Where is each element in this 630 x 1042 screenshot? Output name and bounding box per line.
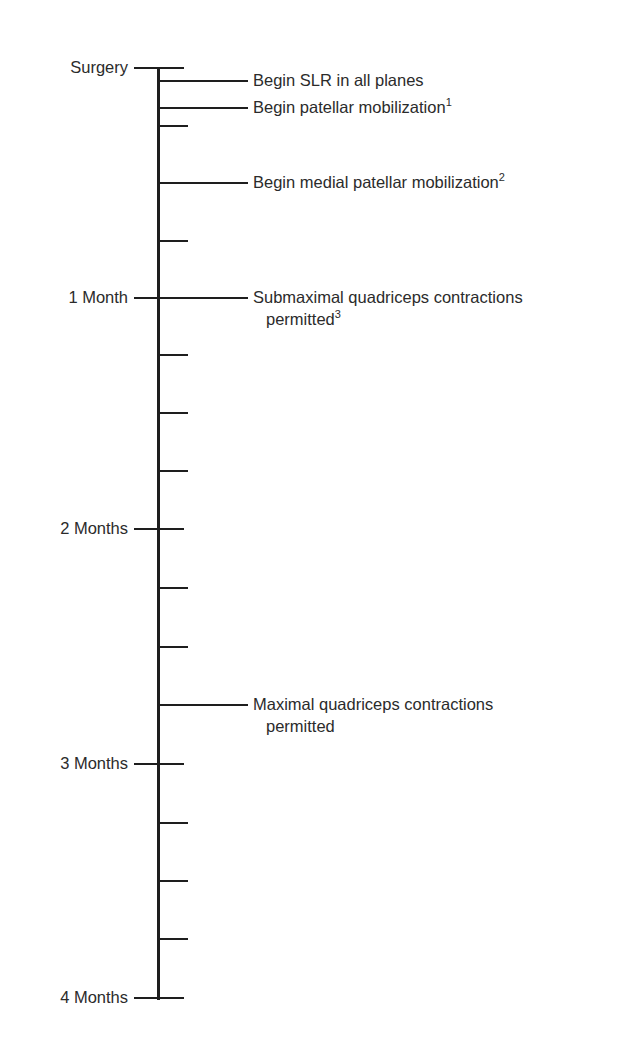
event-label-maximal-quadriceps: Maximal quadriceps contractions permitte… <box>253 694 493 736</box>
label-surgery: Surgery <box>70 57 128 77</box>
event-text: Submaximal quadriceps contractions <box>253 288 523 306</box>
label-2-months: 2 Months <box>60 518 128 538</box>
week-tick <box>159 938 188 940</box>
tick-2-months <box>134 528 184 530</box>
label-3-months: 3 Months <box>60 753 128 773</box>
event-line-submaximal-quadriceps <box>159 297 248 299</box>
tick-surgery <box>134 67 184 69</box>
event-label-slr: Begin SLR in all planes <box>253 70 424 90</box>
week-tick <box>159 125 188 127</box>
event-label-medial-patellar-mobilization: Begin medial patellar mobilization2 <box>253 172 505 192</box>
rehab-timeline: Surgery 1 Month 2 Months 3 Months 4 Mont… <box>0 0 630 1042</box>
week-tick <box>159 880 188 882</box>
event-line-medial-patellar-mobilization <box>159 182 248 184</box>
event-text: Begin patellar mobilization <box>253 98 446 116</box>
week-tick <box>159 240 188 242</box>
week-tick <box>159 412 188 414</box>
event-line-patellar-mobilization <box>159 107 248 109</box>
footnote-ref: 2 <box>499 171 505 183</box>
tick-3-months <box>134 763 184 765</box>
event-text: Begin SLR in all planes <box>253 71 424 89</box>
event-text-line2: permitted <box>266 310 335 328</box>
event-text-line2: permitted <box>266 717 335 735</box>
week-tick <box>159 470 188 472</box>
event-line-maximal-quadriceps <box>159 704 248 706</box>
label-4-months: 4 Months <box>60 987 128 1007</box>
week-tick <box>159 354 188 356</box>
event-label-submaximal-quadriceps: Submaximal quadriceps contractions permi… <box>253 287 523 329</box>
event-text-continued: permitted <box>253 716 493 736</box>
label-1-month: 1 Month <box>68 287 128 307</box>
tick-4-months <box>134 997 184 999</box>
event-text: Maximal quadriceps contractions <box>253 695 493 713</box>
week-tick <box>159 587 188 589</box>
event-text: Begin medial patellar mobilization <box>253 173 499 191</box>
week-tick <box>159 646 188 648</box>
event-text-continued: permitted3 <box>253 309 523 329</box>
event-label-patellar-mobilization: Begin patellar mobilization1 <box>253 97 452 117</box>
footnote-ref: 1 <box>446 96 452 108</box>
event-line-slr <box>159 80 248 82</box>
timeline-axis <box>157 67 160 1000</box>
week-tick <box>159 822 188 824</box>
footnote-ref: 3 <box>335 308 341 320</box>
